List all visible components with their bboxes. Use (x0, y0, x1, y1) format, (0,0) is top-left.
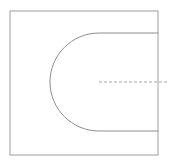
figure-background (0, 0, 173, 165)
technical-drawing (0, 0, 173, 165)
figure-canvas: Rounded-nose profile with centerline Lin… (0, 0, 173, 165)
